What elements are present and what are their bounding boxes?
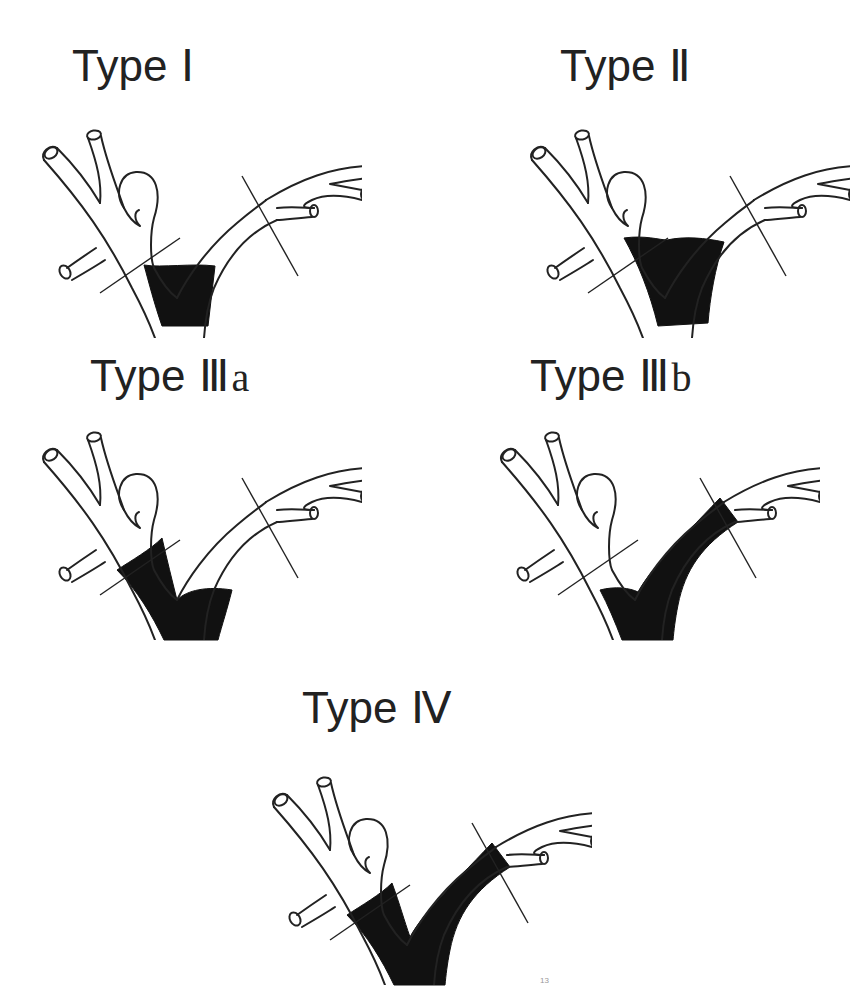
bile-duct-diagram [22, 108, 362, 338]
tumor-region [600, 498, 738, 640]
panel-type-3b: TypeⅢb [430, 330, 862, 630]
bile-duct-diagram [480, 410, 820, 640]
tumor-region [347, 843, 510, 985]
panel-title: TypeⅣ [302, 682, 454, 734]
panel-type-1: TypeⅠ [0, 0, 400, 330]
panel-type-2: TypeⅡ [460, 0, 860, 330]
bile-duct-diagram [22, 410, 362, 640]
panel-title: TypeⅠ [72, 40, 196, 92]
panel-type-4: TypeⅣ [230, 630, 630, 990]
panel-type-3a: TypeⅢa [0, 330, 430, 630]
bile-duct-diagram [252, 755, 592, 985]
caption-superscript: 13 [540, 976, 549, 985]
bile-duct-diagram [510, 108, 850, 338]
panel-title: TypeⅡ [560, 40, 693, 92]
panel-title: TypeⅢa [90, 350, 249, 402]
tumor-region [144, 265, 215, 326]
panel-title: TypeⅢb [530, 350, 691, 402]
